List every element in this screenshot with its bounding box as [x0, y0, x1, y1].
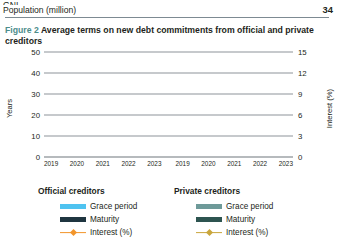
- y-axis-title-right: Interest (%): [325, 81, 334, 137]
- x-tick: 2019: [176, 160, 190, 167]
- gridline: [44, 94, 293, 95]
- legend-item-maturity-official: Maturity: [38, 213, 166, 226]
- y-tick: 0: [36, 153, 40, 162]
- figure-title: Average terms on new debt commitments fr…: [5, 25, 314, 46]
- gridline: [44, 52, 293, 53]
- legend-item-interest-official: Interest (%): [38, 226, 166, 239]
- gridline: [44, 73, 293, 74]
- legend-group-official: Official creditors Grace period Maturity…: [38, 186, 166, 239]
- table-row-value: 34: [323, 5, 333, 15]
- axis-baseline: [44, 157, 293, 158]
- legend-group-title: Official creditors: [38, 186, 166, 196]
- legend-item-grace-period-official: Grace period: [38, 200, 166, 213]
- y-axis-title-left: Years: [5, 87, 14, 131]
- y-tick: 6: [298, 111, 302, 120]
- color-swatch-icon: [196, 217, 222, 222]
- x-axis-group-official: 2019 2020 2021 2022 2023: [44, 160, 162, 167]
- legend-item-label: Interest (%): [90, 228, 132, 237]
- x-axis-ticks: 2019 2020 2021 2022 2023 2019 2020 2021 …: [44, 160, 293, 167]
- legend-item-maturity-private: Maturity: [174, 213, 302, 226]
- legend-group-private: Private creditors Grace period Maturity …: [174, 186, 302, 239]
- color-swatch-icon: [196, 204, 222, 209]
- legend-item-label: Maturity: [90, 215, 119, 224]
- y-tick: 3: [298, 132, 302, 141]
- x-tick: 2021: [96, 160, 110, 167]
- x-axis-group-private: 2019 2020 2021 2022 2023: [176, 160, 294, 167]
- x-tick: 2020: [70, 160, 84, 167]
- y-tick: 10: [31, 132, 40, 141]
- y-tick: 40: [31, 69, 40, 78]
- y-axis-ticks-left: 50 40 30 20 10 0: [18, 52, 40, 158]
- y-tick: 15: [298, 48, 307, 57]
- legend-item-label: Maturity: [226, 215, 255, 224]
- figure-chart: Years Interest (%) 50 40 30 20 10 0 15 1…: [0, 52, 338, 176]
- chart-legend: Official creditors Grace period Maturity…: [0, 186, 338, 239]
- legend-item-grace-period-private: Grace period: [174, 200, 302, 213]
- y-tick: 50: [31, 48, 40, 57]
- legend-item-label: Grace period: [226, 202, 273, 211]
- legend-item-label: Grace period: [90, 202, 137, 211]
- line-marker-icon: [196, 229, 222, 236]
- x-tick: 2023: [279, 160, 293, 167]
- table-divider: [5, 17, 329, 19]
- x-tick: 2019: [44, 160, 58, 167]
- legend-group-title: Private creditors: [174, 186, 302, 196]
- plot-area: [44, 52, 293, 158]
- color-swatch-icon: [60, 217, 86, 222]
- y-tick: 9: [298, 90, 302, 99]
- table-row: Population (million) 34: [3, 5, 333, 15]
- y-tick: 20: [31, 111, 40, 120]
- x-tick: 2021: [227, 160, 241, 167]
- y-tick: 12: [298, 69, 307, 78]
- table-row-label: Population (million): [3, 5, 76, 15]
- figure-number: Figure 2: [5, 25, 39, 35]
- gridline: [44, 115, 293, 116]
- line-marker-icon: [60, 229, 86, 236]
- x-tick: 2022: [121, 160, 135, 167]
- x-tick: 2022: [253, 160, 267, 167]
- y-axis-ticks-right: 15 12 9 6 3 0: [298, 52, 320, 158]
- gridline: [44, 136, 293, 137]
- color-swatch-icon: [60, 204, 86, 209]
- statistics-table: GNI .. Population (million) 34: [0, 0, 338, 18]
- y-tick: 0: [298, 153, 302, 162]
- figure-caption: Figure 2 Average terms on new debt commi…: [5, 25, 330, 46]
- x-tick: 2020: [201, 160, 215, 167]
- y-tick: 30: [31, 90, 40, 99]
- legend-item-label: Interest (%): [226, 228, 268, 237]
- legend-item-interest-private: Interest (%): [174, 226, 302, 239]
- x-tick: 2023: [147, 160, 161, 167]
